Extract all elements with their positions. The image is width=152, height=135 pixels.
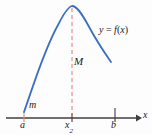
function-label: y = f(x)	[99, 25, 128, 35]
calculus-extreme-value-figure: a x2 b x m M y = f(x)	[0, 0, 152, 135]
minimum-value-label: m	[29, 100, 36, 110]
tick-label-x2-subscript: 2	[69, 127, 73, 135]
tick-label-x2: x2	[65, 120, 73, 133]
function-label-paren-close: )	[125, 24, 128, 35]
function-curve	[24, 6, 111, 112]
function-label-equals: =	[103, 24, 114, 35]
tick-label-a: a	[20, 120, 25, 130]
maximum-value-label: M	[74, 56, 83, 67]
axis-name-label: x	[143, 110, 147, 120]
tick-label-b: b	[111, 120, 116, 130]
figure-canvas	[0, 0, 152, 135]
x-axis-arrowhead	[136, 115, 142, 122]
